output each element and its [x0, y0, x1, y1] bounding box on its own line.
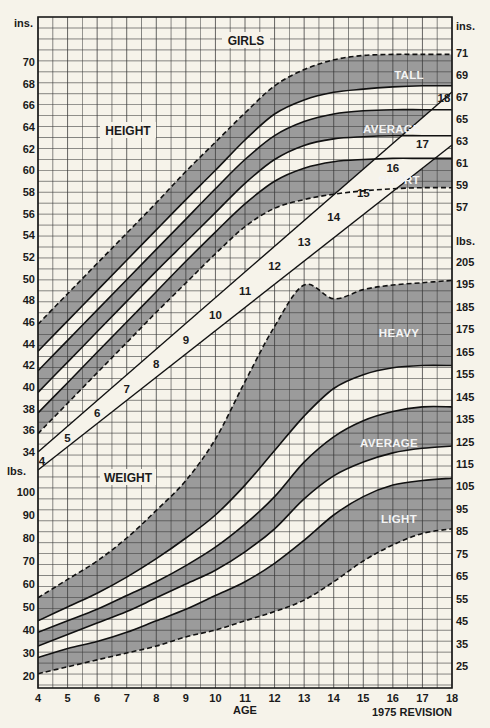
age-diagonal-label: 7 — [124, 383, 130, 395]
tick-height-left: 34 — [23, 446, 36, 458]
tick-age: 18 — [446, 692, 458, 704]
tick-height-left: 36 — [23, 424, 35, 436]
tick-weight-right: 85 — [456, 525, 468, 537]
tick-age: 15 — [357, 692, 369, 704]
tick-weight-right: 45 — [456, 615, 468, 627]
tick-weight-left: 100 — [17, 486, 35, 498]
age-diagonal-label: 11 — [239, 285, 252, 297]
age-diagonal-label: 4 — [39, 455, 46, 467]
tick-height-left: 54 — [23, 229, 36, 241]
weight-section-label: WEIGHT — [104, 471, 153, 485]
tick-height-left: 68 — [23, 78, 35, 90]
tick-height-left: 70 — [23, 56, 35, 68]
band-label-tall: TALL — [394, 69, 424, 81]
tick-weight-right: 35 — [456, 638, 468, 650]
band-label-heavy: HEAVY — [379, 327, 419, 339]
tick-height-right: 61 — [456, 157, 468, 169]
tick-height-left: 42 — [23, 359, 35, 371]
tick-height-left: 50 — [23, 273, 35, 285]
tick-height-left: 44 — [23, 338, 36, 350]
tick-weight-right: 145 — [456, 391, 474, 403]
age-diagonal-label: 10 — [209, 309, 222, 321]
tick-age: 14 — [328, 692, 341, 704]
tick-weight-right: 135 — [456, 413, 474, 425]
tick-age: 10 — [209, 692, 221, 704]
tick-height-left: 56 — [23, 208, 35, 220]
age-diagonal-label: 16 — [386, 162, 399, 174]
age-diagonal-label: 17 — [416, 138, 429, 150]
tick-weight-left: 90 — [23, 509, 35, 521]
tick-weight-right: 165 — [456, 346, 474, 358]
tick-weight-right: 75 — [456, 548, 468, 560]
age-diagonal-label: 13 — [298, 236, 311, 248]
unit-ins-right: ins. — [456, 20, 475, 32]
tick-height-left: 40 — [23, 381, 35, 393]
tick-age: 4 — [35, 692, 42, 704]
tick-height-left: 48 — [23, 294, 35, 306]
age-diagonal-label: 12 — [268, 260, 281, 272]
tick-weight-right: 105 — [456, 480, 474, 492]
age-diagonal-label: 14 — [327, 211, 340, 223]
band-label-short: SHORT — [378, 174, 420, 186]
tick-age: 7 — [124, 692, 130, 704]
tick-height-right: 59 — [456, 179, 468, 191]
tick-age: 11 — [239, 692, 251, 704]
age-diagonal-label: 18 — [438, 92, 451, 104]
tick-age: 5 — [65, 692, 71, 704]
tick-age: 12 — [268, 692, 280, 704]
tick-height-right: 71 — [456, 47, 468, 59]
tick-weight-right: 185 — [456, 301, 474, 313]
unit-lbs-right: lbs. — [456, 235, 475, 247]
age-diagonal-label: 15 — [357, 187, 370, 199]
tick-weight-right: 205 — [456, 256, 474, 268]
tick-weight-right: 55 — [456, 593, 468, 605]
tick-height-left: 64 — [23, 121, 36, 133]
age-diagonal-label: 8 — [153, 358, 160, 370]
tick-weight-left: 20 — [23, 670, 35, 682]
tick-height-right: 65 — [456, 113, 468, 125]
tick-height-left: 62 — [23, 143, 35, 155]
tick-weight-right: 125 — [456, 436, 474, 448]
band-label-average-weight: AVERAGE — [360, 437, 418, 449]
tick-height-right: 69 — [456, 69, 468, 81]
tick-age: 13 — [298, 692, 310, 704]
tick-height-left: 46 — [23, 316, 35, 328]
tick-height-right: 67 — [456, 91, 468, 103]
unit-ins-left: ins. — [14, 17, 33, 29]
age-diagonal-label: 5 — [64, 432, 71, 444]
tick-height-left: 58 — [23, 186, 35, 198]
tick-height-left: 52 — [23, 251, 35, 263]
chart-title: GIRLS — [228, 34, 265, 48]
age-diagonal-label: 6 — [94, 407, 100, 419]
tick-weight-right: 155 — [456, 368, 474, 380]
tick-weight-right: 25 — [456, 660, 468, 672]
tick-age: 17 — [416, 692, 428, 704]
band-label-light: LIGHT — [381, 513, 417, 525]
tick-age: 16 — [387, 692, 399, 704]
band-label-average-height: AVERAGE — [363, 123, 421, 135]
height-section-label: HEIGHT — [105, 124, 151, 138]
tick-weight-left: 50 — [23, 601, 35, 613]
tick-weight-left: 30 — [23, 647, 35, 659]
age-diagonal-label: 9 — [183, 334, 189, 346]
tick-weight-right: 115 — [456, 458, 474, 470]
tick-height-right: 57 — [456, 201, 468, 213]
tick-weight-left: 80 — [23, 532, 35, 544]
tick-weight-right: 65 — [456, 570, 468, 582]
tick-age: 8 — [153, 692, 159, 704]
unit-lbs-left: lbs. — [7, 465, 26, 477]
tick-height-right: 63 — [456, 135, 468, 147]
tick-age: 6 — [94, 692, 100, 704]
tick-weight-left: 40 — [23, 624, 35, 636]
x-axis-label: AGE — [233, 704, 257, 716]
tick-height-left: 66 — [23, 99, 35, 111]
tick-weight-right: 95 — [456, 503, 468, 515]
tick-weight-right: 195 — [456, 278, 474, 290]
tick-age: 9 — [183, 692, 189, 704]
growth-chart: 456789101112131415161718 343638404244464… — [0, 0, 490, 728]
tick-weight-left: 60 — [23, 578, 35, 590]
tick-height-left: 60 — [23, 164, 35, 176]
revision-note: 1975 REVISION — [372, 706, 452, 718]
tick-weight-right: 175 — [456, 323, 474, 335]
tick-height-left: 38 — [23, 403, 35, 415]
